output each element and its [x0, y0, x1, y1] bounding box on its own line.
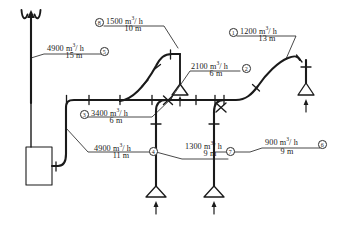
- branch-8-length-label: 10 m: [106, 25, 160, 33]
- branch-8-tag[interactable]: 8: [95, 18, 104, 27]
- diagram-canvas: [0, 0, 337, 226]
- branch-3-length-label: 6 m: [91, 117, 141, 125]
- duct-network-diagram: 1500 m3/ h 10 m 8 4900 m3/ h 15 m 5 1200…: [0, 0, 337, 226]
- stack-arrow-head-icon: [27, 10, 35, 18]
- branch-2-length-label: 6 m: [191, 70, 241, 78]
- branch-3-tag[interactable]: 3: [80, 110, 89, 119]
- branch-1-tag[interactable]: 1: [229, 28, 238, 37]
- branch-4-tag[interactable]: 4: [149, 147, 158, 156]
- fan-unit-box-icon: [26, 147, 52, 185]
- branch-2-tag[interactable]: 2: [242, 64, 251, 73]
- damper-x-mid: [216, 103, 226, 112]
- hood-right-icon: [298, 83, 314, 95]
- branch-4-length-label: 11 m: [94, 152, 148, 160]
- branch-6-flow-label: 900 m3/ h: [265, 137, 298, 147]
- hood-lower-mid-inflow-arrow-icon: [212, 201, 217, 214]
- branch-5-tag[interactable]: 5: [100, 47, 109, 56]
- branch-5-length-label: 15 m: [47, 52, 101, 60]
- hood-lower-left-inflow-arrow-icon: [154, 201, 159, 214]
- hood-lower-left-icon: [146, 186, 166, 197]
- branch-1-length-label: 13 m: [240, 35, 294, 43]
- branch-6-length-label: 9 m: [263, 148, 311, 156]
- duct-hood-lower-left-drop: [156, 100, 166, 186]
- duct-to-hood-left-upper: [120, 54, 180, 101]
- hood-lower-mid-icon: [204, 186, 224, 197]
- branch-7-tag[interactable]: 7: [226, 147, 235, 156]
- branch-6-tag[interactable]: 6: [318, 140, 327, 149]
- hood-right-inflow-arrow-icon: [304, 99, 309, 112]
